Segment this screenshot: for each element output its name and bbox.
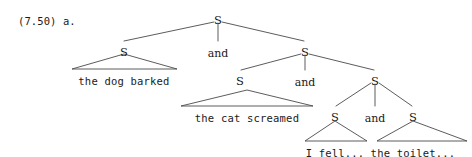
conjunction-label: and [365,113,386,124]
branch-line [336,83,371,106]
branch-line [124,22,214,41]
example-number-label: (7.50) a. [18,16,76,27]
terminal-phrase-label: the dog barked [78,76,169,87]
branch-line [379,83,412,106]
figure-canvas: SSandSSandSSandSthe dog barkedthe cat sc… [0,0,472,157]
triangle-abbreviation [377,121,467,141]
terminal-phrase-label: I fell... [306,148,365,157]
triangle-abbreviations [72,54,467,141]
branch-line [241,54,301,70]
node-label-s: S [236,76,244,87]
conjunction-label: and [295,77,316,88]
conjunction-label: and [208,48,229,59]
node-label-s: S [120,47,128,58]
branch-lines [124,22,412,106]
node-label-s: S [331,112,339,123]
node-label-s: S [371,76,379,87]
terminal-phrase-label: the cat screamed [195,113,299,124]
branch-line [309,54,374,70]
branch-line [222,22,304,41]
triangle-abbreviation [305,121,367,141]
node-label-s: S [301,47,309,58]
terminal-phrase-label: the toilet... [371,148,456,157]
node-label-s: S [409,112,417,123]
triangle-abbreviation [181,90,313,106]
node-label-s: S [214,15,222,26]
